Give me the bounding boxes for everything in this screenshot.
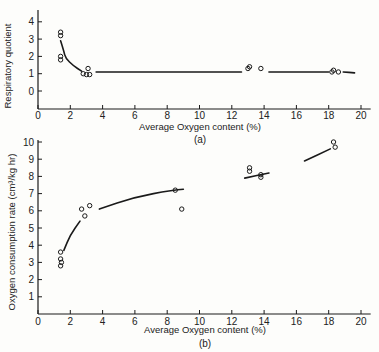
x-tick-label: 16 bbox=[291, 110, 303, 121]
x-tick-label: 2 bbox=[68, 316, 74, 327]
data-point bbox=[180, 207, 184, 211]
x-tick-label: 14 bbox=[259, 110, 271, 121]
data-point bbox=[333, 145, 337, 149]
y-tick-label: 0 bbox=[28, 86, 34, 97]
panel-b-fit-curve bbox=[64, 149, 330, 250]
panel-a-axes: 0246810121416182001234 bbox=[28, 10, 370, 121]
panel-b-data-points bbox=[58, 140, 337, 268]
panel-a-data-points bbox=[58, 30, 340, 77]
y-tick-label: 1 bbox=[28, 291, 34, 302]
data-point bbox=[259, 66, 263, 70]
x-tick-label: 6 bbox=[132, 110, 138, 121]
y-tick-label: 4 bbox=[28, 240, 34, 251]
x-tick-label: 12 bbox=[226, 110, 238, 121]
x-tick-label: 18 bbox=[323, 110, 335, 121]
data-point bbox=[86, 66, 90, 70]
y-tick-label: 2 bbox=[28, 51, 34, 62]
data-point bbox=[83, 214, 87, 218]
panel-b-y-axis-title: Oxygen consumption rate (cm³/kg hr) bbox=[6, 154, 17, 311]
panel-b-axes: 0246810121416182012345678910 bbox=[23, 137, 371, 328]
x-tick-label: 20 bbox=[355, 110, 367, 121]
panel-b-oxygen-consumption: 0246810121416182012345678910 Oxygen cons… bbox=[6, 137, 371, 350]
y-tick-label: 1 bbox=[28, 68, 34, 79]
x-tick-label: 16 bbox=[291, 316, 303, 327]
fit-curve-segment bbox=[61, 41, 82, 71]
panel-b-caption: (b) bbox=[199, 338, 211, 349]
x-tick-label: 4 bbox=[100, 110, 106, 121]
x-tick-label: 10 bbox=[194, 110, 206, 121]
x-tick-label: 4 bbox=[100, 316, 106, 327]
data-point bbox=[79, 207, 83, 211]
data-point bbox=[336, 70, 340, 74]
y-tick-label: 3 bbox=[28, 257, 34, 268]
fit-curve-segment bbox=[343, 72, 354, 73]
y-tick-label: 6 bbox=[28, 205, 34, 216]
data-point bbox=[87, 72, 91, 76]
y-tick-label: 3 bbox=[28, 34, 34, 45]
fit-curve-segment bbox=[304, 149, 330, 161]
y-tick-label: 4 bbox=[28, 16, 34, 27]
y-tick-label: 2 bbox=[28, 274, 34, 285]
figure: 0246810121416182001234 Respiratory quoti… bbox=[0, 0, 379, 352]
y-tick-label: 10 bbox=[23, 137, 35, 148]
x-tick-label: 18 bbox=[323, 316, 335, 327]
data-point bbox=[331, 140, 335, 144]
y-tick-label: 9 bbox=[28, 154, 34, 165]
x-tick-label: 0 bbox=[35, 316, 41, 327]
x-tick-label: 2 bbox=[68, 110, 74, 121]
fit-curve-segment bbox=[64, 221, 80, 250]
panel-b-x-axis-title: Average Oxygen content (%) bbox=[144, 324, 266, 335]
x-tick-label: 20 bbox=[355, 316, 367, 327]
panel-a-x-axis-title: Average Oxygen content (%) bbox=[139, 121, 261, 132]
y-tick-label: 8 bbox=[28, 171, 34, 182]
y-tick-label: 5 bbox=[28, 223, 34, 234]
x-tick-label: 0 bbox=[35, 110, 41, 121]
x-tick-label: 8 bbox=[164, 110, 170, 121]
panel-a-y-axis-title: Respiratory quotient bbox=[2, 23, 13, 108]
fit-curve-segment bbox=[99, 189, 183, 209]
x-tick-label: 6 bbox=[132, 316, 138, 327]
panel-a-respiratory-quotient: 0246810121416182001234 Respiratory quoti… bbox=[2, 10, 371, 145]
y-tick-label: 7 bbox=[28, 188, 34, 199]
data-point bbox=[58, 250, 62, 254]
data-point bbox=[87, 203, 91, 207]
fit-curve-segment bbox=[245, 173, 269, 178]
panel-a-fit-curve bbox=[61, 41, 355, 73]
panel-a-caption: (a) bbox=[194, 134, 206, 145]
